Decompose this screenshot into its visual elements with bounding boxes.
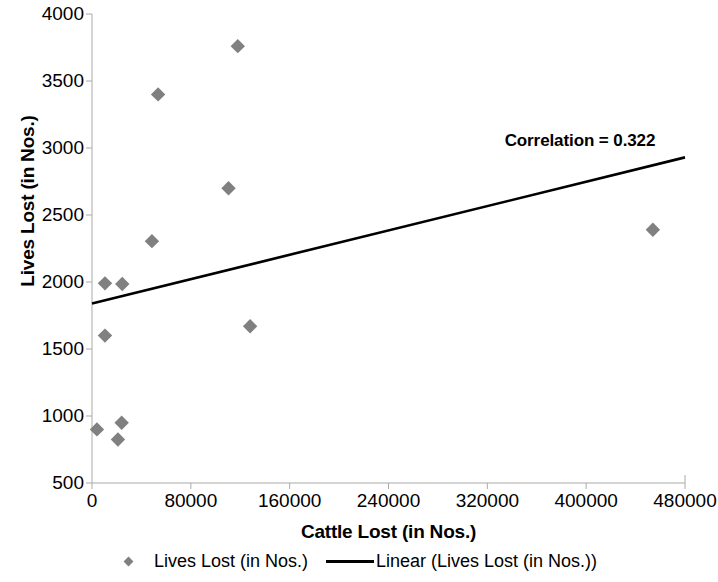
trendline bbox=[92, 157, 685, 303]
legend-entry-trendline: Linear (Lives Lost (in Nos.)) bbox=[308, 552, 597, 570]
data-point-marker bbox=[221, 181, 235, 195]
data-point-marker bbox=[231, 39, 245, 53]
axis-lines bbox=[92, 14, 685, 483]
tick-marks bbox=[86, 14, 685, 489]
data-point-marker bbox=[98, 328, 112, 342]
scatter-chart: Lives Lost (in Nos.) 5001000150020002500… bbox=[0, 0, 718, 582]
y-tick-label: 1000 bbox=[22, 406, 84, 425]
data-point-marker bbox=[145, 234, 159, 248]
x-tick-label: 240000 bbox=[357, 491, 420, 510]
data-points bbox=[90, 39, 660, 447]
data-point-marker bbox=[646, 223, 660, 237]
line-marker-icon bbox=[326, 560, 374, 563]
legend-label-scatter: Lives Lost (in Nos.) bbox=[154, 552, 308, 570]
x-tick-label: 160000 bbox=[258, 491, 321, 510]
data-point-marker bbox=[243, 319, 257, 333]
y-tick-label: 500 bbox=[22, 473, 84, 492]
y-tick-label: 2500 bbox=[22, 205, 84, 224]
data-point-marker bbox=[111, 432, 125, 446]
y-tick-label: 2000 bbox=[22, 272, 84, 291]
y-tick-label: 3000 bbox=[22, 138, 84, 157]
chart-legend: Lives Lost (in Nos.) Linear (Lives Lost … bbox=[0, 552, 718, 570]
legend-label-trendline: Linear (Lives Lost (in Nos.)) bbox=[376, 552, 597, 570]
data-point-marker bbox=[151, 87, 165, 101]
x-tick-label: 480000 bbox=[653, 491, 716, 510]
data-point-marker bbox=[98, 276, 112, 290]
data-point-marker bbox=[115, 277, 129, 291]
data-point-marker bbox=[114, 416, 128, 430]
y-tick-label: 1500 bbox=[22, 339, 84, 358]
x-tick-label: 0 bbox=[87, 491, 98, 510]
legend-entry-scatter: Lives Lost (in Nos.) bbox=[121, 552, 308, 570]
x-tick-label: 80000 bbox=[164, 491, 217, 510]
y-tick-label: 4000 bbox=[22, 4, 84, 23]
x-tick-label: 400000 bbox=[554, 491, 617, 510]
correlation-annotation: Correlation = 0.322 bbox=[505, 131, 656, 151]
x-axis-title: Cattle Lost (in Nos.) bbox=[92, 521, 685, 543]
x-tick-label: 320000 bbox=[456, 491, 519, 510]
diamond-marker-icon bbox=[123, 556, 133, 566]
y-tick-label: 3500 bbox=[22, 71, 84, 90]
